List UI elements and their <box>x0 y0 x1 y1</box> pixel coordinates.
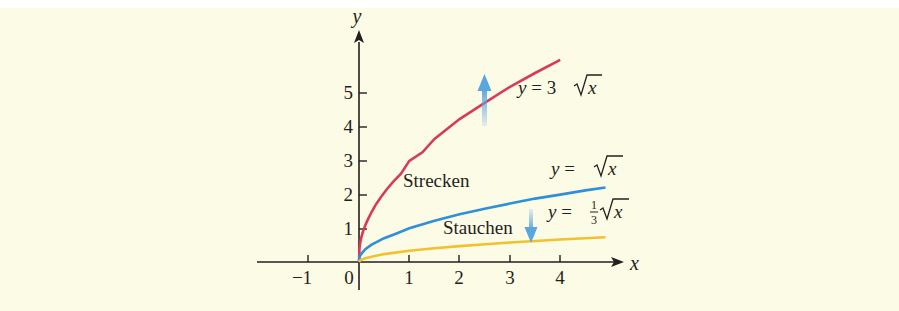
equation-sqrt-x: y = x <box>549 156 623 179</box>
svg-text:y = 3: y = 3 <box>516 77 556 98</box>
y-tick-label: 1 <box>344 218 354 239</box>
eq-yellow-radicand: x <box>613 201 623 222</box>
x-axis <box>257 257 624 267</box>
y-ticks <box>359 93 367 229</box>
x-axis-label: x <box>629 252 639 274</box>
x-tick-label: 1 <box>404 267 414 288</box>
y-axis-label: y <box>351 5 362 28</box>
x-ticks <box>308 255 560 262</box>
compress-arrow-icon <box>525 209 538 243</box>
svg-text:y =: y = <box>549 158 575 179</box>
eq-red-lhs: y <box>516 77 527 98</box>
eq-yellow-numerator: 1 <box>591 198 597 212</box>
x-tick-label: −1 <box>292 267 312 288</box>
eq-red-radicand: x <box>587 77 597 98</box>
svg-text:y =: y = <box>546 201 572 222</box>
strecken-label: Strecken <box>403 170 470 191</box>
y-tick-label: 2 <box>344 184 354 205</box>
x-tick-label: 2 <box>454 267 464 288</box>
eq-blue-lhs: y <box>549 158 560 179</box>
x-tick-label: 3 <box>505 267 515 288</box>
equation-3-sqrt-x: y = 3 x <box>516 75 602 98</box>
x-tick-label: 4 <box>555 267 565 288</box>
eq-blue-op: = <box>559 158 574 179</box>
y-tick-label: 3 <box>344 150 354 171</box>
eq-yellow-lhs: y <box>546 201 557 222</box>
eq-red-op: = 3 <box>526 77 556 98</box>
y-tick-label: 4 <box>344 116 354 137</box>
x-tick-label: 0 <box>344 267 354 288</box>
equation-third-sqrt-x: y = 1 3 x <box>546 198 629 227</box>
eq-yellow-op: = <box>556 201 571 222</box>
eq-yellow-denominator: 3 <box>591 213 597 227</box>
y-tick-label: 5 <box>344 82 354 103</box>
stauchen-label: Stauchen <box>443 217 513 238</box>
sqrt-stretch-chart: −1 0 1 2 3 4 1 2 3 4 5 y x Strecken Stau… <box>0 0 899 311</box>
y-axis-arrow-icon <box>354 30 364 43</box>
curve-third-sqrt-x <box>359 237 606 262</box>
eq-blue-radicand: x <box>607 158 617 179</box>
